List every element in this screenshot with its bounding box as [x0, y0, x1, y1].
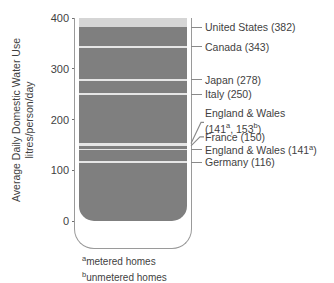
gridline-france [79, 144, 187, 145]
y-axis-title-line-2: litres/person/day [23, 38, 36, 202]
y-tick-label-0: 0 [63, 215, 69, 227]
footnotes: ametered homes bunmetered homes [82, 252, 262, 283]
label-england-wales-both-line-1: England & Wales [205, 108, 285, 120]
plot-area [79, 18, 189, 250]
label-japan: Japan (278) [205, 74, 261, 87]
y-tick-label-200: 200 [51, 114, 69, 126]
y-axis-title-line-1: Average Daily Domestic Water Use [10, 38, 23, 202]
y-axis-title: Average Daily Domestic Water Use litres/… [0, 0, 46, 240]
annotation-labels: United States (382) Canada (343) Japan (… [189, 0, 334, 283]
leader-canada [191, 46, 202, 47]
headspace-band [79, 18, 187, 27]
ew-metered-suffix: ) [313, 144, 317, 156]
label-united-states: United States (382) [205, 21, 295, 34]
footnote-b: bunmetered homes [82, 268, 262, 283]
leader-japan [191, 79, 202, 80]
gridline-england-wales-metered [79, 149, 187, 150]
label-england-wales-metered: England & Wales (141a) [205, 142, 317, 157]
ew-metered-prefix: England & Wales (141 [205, 144, 309, 156]
label-canada: Canada (343) [205, 41, 269, 54]
leader-germany [191, 162, 202, 163]
y-tick-label-100: 100 [51, 164, 69, 176]
footnote-a-text: metered homes [86, 256, 155, 267]
footnote-a: ametered homes [82, 252, 262, 268]
leader-united-states [191, 27, 202, 28]
water-fill-bar [79, 27, 187, 221]
leader-line-england-wales-both [191, 122, 204, 143]
gridline-germany [79, 161, 187, 162]
footnote-b-text: unmetered homes [86, 273, 167, 283]
leader-line-france [191, 137, 204, 146]
y-tick-label-400: 400 [51, 12, 69, 24]
gridline-canada [79, 46, 187, 47]
water-use-chart: Average Daily Domestic Water Use litres/… [0, 0, 334, 283]
leader-italy [191, 94, 202, 95]
label-germany: Germany (116) [205, 156, 275, 169]
label-italy: Italy (250) [205, 88, 252, 101]
gridline-italy [79, 93, 187, 94]
y-tick-label-300: 300 [51, 63, 69, 75]
leader-england-wales-metered [191, 149, 202, 150]
gridline-japan [79, 79, 187, 80]
